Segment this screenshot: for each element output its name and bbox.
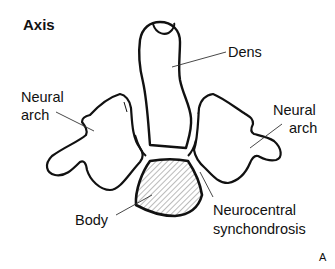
vertebral-body bbox=[136, 160, 202, 217]
right-neural-arch-outline bbox=[194, 94, 281, 183]
left-neural-arch-outline bbox=[47, 94, 143, 190]
diagram-title: Axis bbox=[23, 16, 55, 33]
label-dens: Dens bbox=[228, 44, 262, 61]
label-neural-arch-right-line1: Neural bbox=[273, 102, 316, 119]
dens-outline bbox=[139, 22, 191, 148]
left-arch-inner-line bbox=[124, 102, 127, 112]
left-synchondrosis-line bbox=[135, 135, 146, 156]
label-neural-arch-left-line2: arch bbox=[21, 107, 49, 124]
label-neural-arch-right-line2: arch bbox=[289, 120, 317, 137]
label-neural-arch-left-line1: Neural bbox=[21, 89, 64, 106]
label-neurocentral-line1: Neurocentral bbox=[213, 202, 296, 219]
label-neurocentral-line2: synchondrosis bbox=[213, 221, 306, 238]
panel-letter: A bbox=[319, 249, 326, 266]
label-body: Body bbox=[75, 212, 108, 229]
